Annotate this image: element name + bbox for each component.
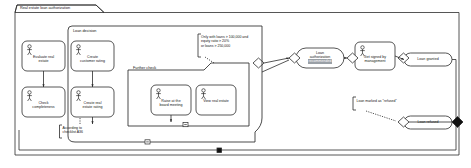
- further-check-partition: [128, 63, 249, 126]
- note-refused-leader: [366, 111, 396, 121]
- flow-junction-marker: [217, 148, 222, 153]
- actor-icon-restate: [76, 91, 81, 101]
- create-customer-rating-label[interactable]: Create customer rating: [72, 55, 113, 64]
- loan-decision-partition-title: Loan decision: [73, 29, 96, 33]
- evaluate-real-estate-label[interactable]: Evaluate real estate: [23, 55, 64, 64]
- note-refused-text[interactable]: Loan marked as "refused": [357, 99, 397, 103]
- actor-icon-customer: [76, 45, 81, 55]
- selection-highlight: recommended: [308, 59, 332, 63]
- create-real-estate-rating-label[interactable]: Create real estate rating: [72, 101, 113, 110]
- check-completeness-label[interactable]: Check completeness: [23, 101, 64, 110]
- check-completeness-line2: completeness: [23, 105, 64, 109]
- note-checklist-text[interactable]: According to checklist A36: [63, 126, 83, 135]
- raise-at-board-meeting-label[interactable]: Raise at the board meeting: [152, 99, 190, 108]
- outer-frame-title: Real estate loan authorization: [20, 6, 70, 10]
- further-check-partition-title: Further check: [133, 66, 156, 70]
- note-refused-line1: Loan marked as "refused": [357, 99, 397, 103]
- evaluate-real-estate-line2: estate: [23, 59, 64, 63]
- note-conditions-leader: [205, 57, 214, 63]
- note-conditions-text[interactable]: Only with loans > 100,000 and equity rat…: [201, 35, 248, 48]
- get-signed-by-management-label[interactable]: Get signed by management: [356, 55, 394, 64]
- get-signed-by-management-line2: management: [356, 59, 394, 63]
- view-real-estate-label[interactable]: View real estate: [197, 99, 235, 103]
- edge-granted-to-final: [452, 60, 456, 151]
- edge-decision-to-authorization: [264, 58, 289, 63]
- diagram-canvas: Real estate loan authorization Loan deci…: [0, 0, 471, 168]
- create-customer-rating-line2: customer rating: [72, 59, 113, 63]
- actor-icon-view: [201, 89, 206, 99]
- loan-authorization-recommended-label[interactable]: Loan authorization recommended: [297, 51, 343, 64]
- final-node-main: [452, 117, 463, 128]
- loan-refused-label[interactable]: Loan refused: [405, 120, 451, 124]
- loan-authorization-line3-selected: recommended: [297, 59, 343, 63]
- loan-granted-label[interactable]: Loan granted: [405, 57, 451, 61]
- actor-icon-raise: [156, 89, 161, 99]
- actor-icon-evaluate: [27, 45, 32, 55]
- edge-partition-to-auth: [262, 60, 289, 72]
- view-real-estate-line1: View real estate: [197, 99, 235, 103]
- note-conditions-line3: or loans > 250,000: [201, 44, 248, 48]
- raise-at-board-meeting-line2: board meeting: [152, 103, 190, 107]
- create-real-estate-rating-line2: estate rating: [72, 105, 113, 109]
- actor-icon-completeness: [27, 91, 32, 101]
- note-checklist-line2: checklist A36: [63, 130, 83, 134]
- diagram-vector-layer: [0, 0, 471, 168]
